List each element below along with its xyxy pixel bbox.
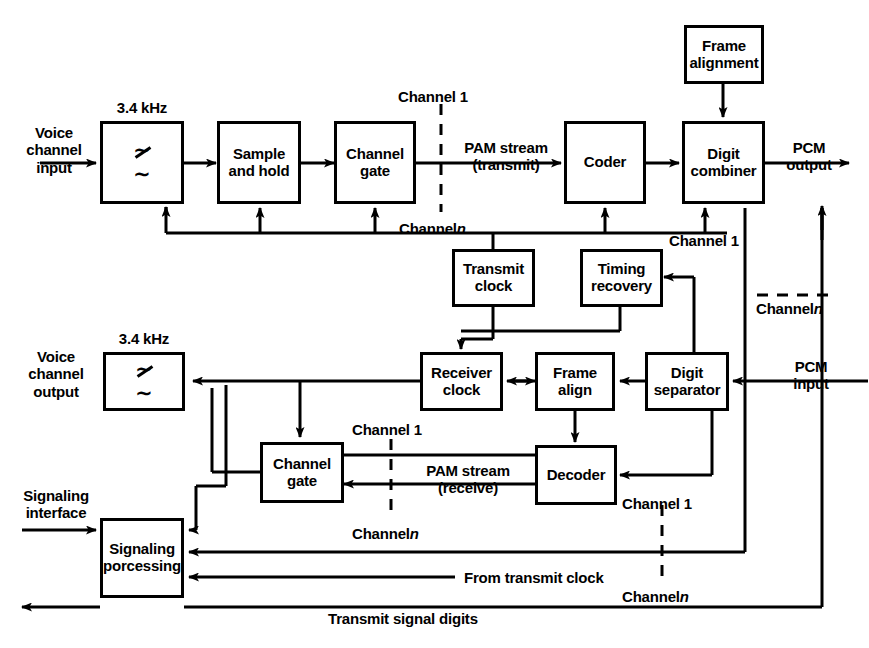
block-digit-combiner[interactable]: Digit combiner: [682, 121, 765, 204]
label-channel-n-receive-gate-italic: n: [410, 525, 419, 542]
block-frame-alignment[interactable]: Frame alignment: [684, 25, 764, 84]
label-channel-n-transmit-gate-text: Channel: [399, 220, 457, 237]
label-channel-n-combiner: Channeln: [756, 283, 823, 318]
label-channel-n-decoder-italic: n: [680, 588, 689, 605]
label-voice-channel-input: Voice channel input: [14, 124, 94, 176]
label-channel-n-transmit-gate: Channeln: [399, 203, 466, 238]
block-frame-align-label: Frame align: [538, 365, 612, 399]
block-timing-recovery[interactable]: Timing recovery: [580, 249, 663, 307]
block-channel-gate-transmit-label: Channel gate: [337, 146, 413, 180]
block-coder-label: Coder: [584, 154, 626, 171]
label-channel-1-transmit-gate: Channel 1: [398, 88, 468, 105]
label-channel-n-receive-gate-text: Channel: [352, 525, 410, 542]
lowpass-filter-icon: ∼ ∼: [133, 142, 150, 183]
label-channel-n-transmit-gate-italic: n: [457, 220, 466, 237]
block-digit-combiner-label: Digit combiner: [685, 146, 762, 180]
block-frame-alignment-label: Frame alignment: [687, 38, 761, 72]
label-pam-stream-transmit: PAM stream (transmit): [452, 139, 560, 174]
label-channel-n-decoder-text: Channel: [622, 588, 680, 605]
block-sample-and-hold-label: Sample and hold: [220, 146, 298, 180]
block-digit-separator[interactable]: Digit separator: [645, 352, 729, 411]
block-digit-separator-label: Digit separator: [648, 365, 726, 399]
label-channel-1-decoder: Channel 1: [622, 495, 692, 512]
label-pam-stream-receive: PAM stream (receive): [412, 462, 524, 497]
label-transmit-signal-digits: Transmit signal digits: [328, 610, 478, 627]
lowpass-filter-icon: ∼ ∼: [135, 361, 152, 402]
label-pcm-output: PCM output: [772, 139, 846, 174]
block-diagram: Frame alignment ∼ ∼ Sample and hold Chan…: [0, 0, 869, 648]
block-frame-align[interactable]: Frame align: [535, 352, 615, 411]
label-channel-n-combiner-italic: n: [814, 300, 823, 317]
block-sample-and-hold[interactable]: Sample and hold: [217, 121, 301, 204]
block-filter-transmit[interactable]: ∼ ∼: [100, 121, 184, 204]
label-channel-n-combiner-text: Channel: [756, 300, 814, 317]
label-filter-receive-caption: 3.4 kHz: [103, 330, 185, 347]
block-decoder[interactable]: Decoder: [535, 445, 617, 505]
label-channel-n-receive-gate: Channeln: [352, 508, 419, 543]
label-pcm-input: PCM input: [778, 358, 844, 393]
block-filter-receive[interactable]: ∼ ∼: [103, 352, 185, 411]
block-channel-gate-receive-label: Channel gate: [263, 456, 341, 490]
block-transmit-clock[interactable]: Transmit clock: [452, 249, 535, 307]
label-channel-n-decoder: Channeln: [622, 571, 689, 606]
block-receiver-clock[interactable]: Receiver clock: [420, 352, 503, 411]
block-channel-gate-receive[interactable]: Channel gate: [260, 442, 344, 503]
label-filter-transmit-caption: 3.4 kHz: [100, 99, 184, 116]
label-from-transmit-clock: From transmit clock: [464, 569, 604, 586]
label-voice-channel-output: Voice channel output: [14, 348, 98, 400]
label-signaling-interface: Signaling interface: [10, 487, 102, 522]
block-signaling-processing[interactable]: Signaling porcessing: [100, 518, 184, 598]
block-signaling-processing-label: Signaling porcessing: [103, 541, 181, 575]
block-coder[interactable]: Coder: [564, 121, 646, 204]
block-receiver-clock-label: Receiver clock: [423, 365, 500, 399]
block-timing-recovery-label: Timing recovery: [583, 261, 660, 295]
block-decoder-label: Decoder: [547, 467, 606, 484]
block-transmit-clock-label: Transmit clock: [455, 261, 532, 295]
label-channel-1-combiner: Channel 1: [669, 232, 739, 249]
label-channel-1-receive-gate: Channel 1: [352, 421, 422, 438]
block-channel-gate-transmit[interactable]: Channel gate: [334, 121, 416, 204]
